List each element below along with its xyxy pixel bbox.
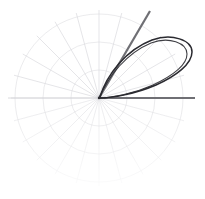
polar-plot-canvas bbox=[0, 0, 205, 199]
grid-fade-overlay bbox=[0, 0, 205, 199]
grid-fade-rect bbox=[0, 0, 205, 199]
polar-plot-figure bbox=[0, 0, 205, 199]
origin-point bbox=[98, 97, 100, 99]
